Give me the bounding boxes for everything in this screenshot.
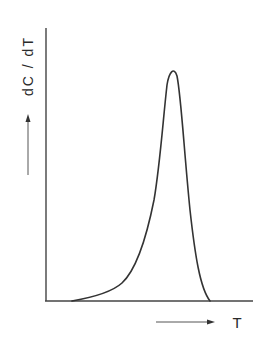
x-axis-label: T: [232, 314, 241, 331]
y-axis-label: dC / dT: [20, 36, 36, 96]
chart: dC / dT T: [0, 0, 265, 349]
data-curve: [72, 71, 210, 301]
y-axis-arrow-icon: [26, 114, 31, 175]
x-axis-arrow-icon: [156, 320, 215, 325]
